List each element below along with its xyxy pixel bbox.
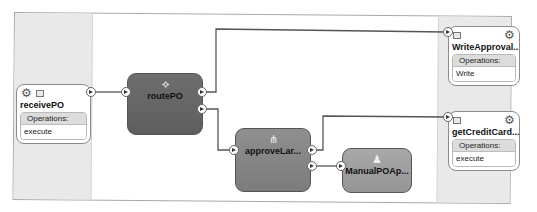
component-name: routePO	[147, 91, 183, 101]
collapse-icon[interactable]	[36, 90, 44, 97]
operation-item[interactable]: Write	[453, 67, 515, 81]
reference-writeapproval[interactable]: ⚙ WriteApproval... Operations: Write	[448, 26, 520, 86]
bpel-process-icon: ⋔	[267, 133, 279, 145]
collapse-icon[interactable]	[453, 32, 461, 39]
component-approvelarge[interactable]: ⋔ approveLar...	[235, 128, 311, 192]
operations-title: Operations:	[453, 140, 515, 152]
component-name: ManualPOAp...	[345, 166, 409, 176]
reference-port-writeapproval[interactable]	[443, 27, 453, 37]
approvelarge-input-port[interactable]	[229, 145, 239, 155]
reference-name: WriteApproval...	[449, 42, 519, 53]
component-routepo[interactable]: ⟡ routePO	[127, 73, 203, 135]
operation-item[interactable]: execute	[21, 125, 86, 139]
reference-getcreditcard[interactable]: ⚙ getCreditCard... Operations: execute	[448, 111, 520, 171]
routepo-input-port[interactable]	[121, 87, 131, 97]
reference-port-getcreditcard[interactable]	[443, 112, 453, 122]
service-receivepo[interactable]: ⚙ receivePO Operations: execute	[16, 84, 91, 144]
operations-title: Operations:	[21, 113, 86, 125]
reference-name: getCreditCard...	[449, 127, 519, 138]
operations-panel: Operations: Write	[452, 54, 516, 82]
service-name: receivePO	[17, 100, 90, 111]
approvelarge-reference-port-1[interactable]	[307, 145, 317, 155]
gear-icon: ⚙	[504, 29, 516, 41]
routepo-reference-port-1[interactable]	[197, 87, 207, 97]
mediator-icon: ⟡	[159, 78, 171, 90]
component-manualpoapproval[interactable]: ♟ ManualPOAp...	[342, 148, 412, 193]
collapse-icon[interactable]	[453, 117, 461, 124]
operations-panel: Operations: execute	[20, 112, 87, 140]
service-port-receivepo[interactable]	[86, 87, 96, 97]
operation-item[interactable]: execute	[453, 152, 515, 166]
gear-icon: ⚙	[21, 87, 33, 99]
component-name: approveLar...	[245, 146, 301, 156]
operations-title: Operations:	[453, 55, 515, 67]
operations-panel: Operations: execute	[452, 139, 516, 167]
routepo-reference-port-2[interactable]	[197, 104, 207, 114]
gear-icon: ⚙	[504, 114, 516, 126]
manualpo-input-port[interactable]	[336, 161, 346, 171]
approvelarge-reference-port-2[interactable]	[307, 161, 317, 171]
human-task-icon: ♟	[371, 153, 383, 165]
